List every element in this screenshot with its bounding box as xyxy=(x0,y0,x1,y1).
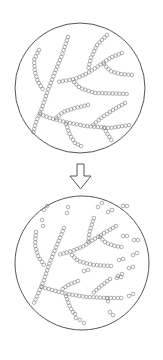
bead xyxy=(61,287,65,291)
bead xyxy=(35,75,39,79)
bead xyxy=(110,208,114,212)
bead xyxy=(124,124,128,128)
bead xyxy=(58,119,62,123)
bead xyxy=(34,71,38,75)
bead xyxy=(69,250,73,254)
bead xyxy=(78,260,82,264)
bead xyxy=(109,70,113,74)
bead xyxy=(85,295,89,299)
bead xyxy=(42,208,46,212)
bead xyxy=(34,234,38,238)
bead xyxy=(88,59,92,63)
bead xyxy=(113,244,117,248)
bead xyxy=(62,252,66,256)
bead xyxy=(125,234,129,238)
bead xyxy=(92,291,96,295)
bead xyxy=(58,253,62,257)
bead xyxy=(116,72,120,76)
bead xyxy=(121,257,125,261)
bead xyxy=(109,296,113,300)
bead xyxy=(60,291,64,295)
bead xyxy=(74,316,78,320)
bead xyxy=(82,124,86,128)
bead xyxy=(89,56,93,60)
bead xyxy=(107,92,111,96)
bead xyxy=(120,72,124,76)
bead xyxy=(118,92,122,96)
bead xyxy=(125,92,129,96)
bead xyxy=(32,301,36,305)
bead xyxy=(78,318,82,322)
bead xyxy=(119,296,123,300)
bead xyxy=(34,120,38,124)
bead xyxy=(65,251,69,255)
bead xyxy=(79,123,83,127)
bead xyxy=(127,73,131,77)
bead xyxy=(104,92,108,96)
bead xyxy=(68,121,72,125)
bead xyxy=(136,238,140,242)
bead xyxy=(86,103,90,107)
bead xyxy=(32,127,36,131)
bead xyxy=(116,245,120,249)
bead xyxy=(85,262,89,266)
bead xyxy=(132,238,136,242)
diagram-canvas xyxy=(0,0,163,360)
bead xyxy=(42,263,46,267)
bead xyxy=(68,78,72,82)
bead xyxy=(87,66,91,70)
bead xyxy=(79,105,83,109)
fragmented-chains-panel xyxy=(15,196,149,330)
bead xyxy=(88,230,92,234)
bead xyxy=(50,288,54,292)
bead xyxy=(88,262,92,266)
bead xyxy=(83,104,87,108)
bead xyxy=(89,226,93,230)
bead xyxy=(109,138,113,142)
bead xyxy=(35,251,39,255)
bottom-circle-outline xyxy=(15,196,149,330)
bead xyxy=(106,264,110,268)
bead xyxy=(87,236,91,240)
bead xyxy=(106,126,110,130)
bead xyxy=(33,244,37,248)
bead xyxy=(113,125,117,129)
bead xyxy=(73,312,77,316)
bead xyxy=(33,65,37,69)
bead xyxy=(100,201,104,205)
detached-bead-fragments xyxy=(40,201,140,325)
bead xyxy=(131,265,135,269)
bead xyxy=(131,253,135,257)
bead xyxy=(82,321,86,325)
bead xyxy=(125,204,129,208)
bead xyxy=(40,218,44,222)
bead xyxy=(71,293,75,297)
bead xyxy=(111,92,115,96)
bead xyxy=(106,300,110,304)
bead xyxy=(81,295,85,299)
bead xyxy=(32,61,36,65)
bead xyxy=(66,205,70,209)
bead xyxy=(112,296,116,300)
bead xyxy=(88,63,92,67)
bead xyxy=(57,290,61,294)
bead xyxy=(97,91,101,95)
bead xyxy=(34,230,38,234)
bead xyxy=(74,294,78,298)
bead xyxy=(113,71,117,75)
bead xyxy=(65,211,69,215)
bead xyxy=(61,79,65,83)
bead xyxy=(100,91,104,95)
bead xyxy=(121,204,125,208)
bead xyxy=(99,296,103,300)
bead xyxy=(102,264,106,268)
bead xyxy=(76,106,80,110)
bead xyxy=(95,296,99,300)
bead xyxy=(82,269,86,273)
intact-chains-panel xyxy=(15,23,145,153)
bead xyxy=(109,264,113,268)
bead xyxy=(47,287,51,291)
bead xyxy=(121,92,125,96)
bead xyxy=(82,261,86,265)
bead xyxy=(33,241,37,245)
